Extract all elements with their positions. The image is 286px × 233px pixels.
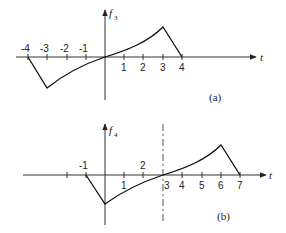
panel-caption-b: (b) (217, 210, 230, 223)
x-axis-label-t: t (269, 169, 273, 181)
tick-label: 3 (160, 62, 166, 73)
panel-b: -1 1 2 3 4 5 6 7 f 4 t (b) (23, 124, 273, 225)
tick-label: 5 (199, 180, 205, 191)
panel-caption-a: (a) (209, 91, 222, 104)
tick-label: 6 (218, 180, 224, 191)
tick-label: 2 (140, 160, 146, 171)
x-axis-label-t: t (260, 51, 264, 63)
tick-label: -3 (40, 43, 49, 54)
tick-label: 4 (179, 62, 185, 73)
y-axis-label-sub: 3 (114, 14, 118, 22)
tick-label: -2 (60, 43, 69, 54)
tick-label: 4 (179, 180, 185, 191)
tick-label: -4 (21, 43, 30, 54)
y-axis-label-sub: 4 (114, 131, 118, 139)
tick-label: 1 (121, 62, 127, 73)
tick-label: -1 (79, 43, 88, 54)
figure-canvas: -4 -3 -2 -1 1 2 3 4 f 3 t (a) -1 1 2 3 (0, 0, 286, 233)
tick-label: 2 (140, 62, 146, 73)
tick-label: -1 (79, 160, 88, 171)
tick-label: 3 (164, 180, 170, 191)
panel-a: -4 -3 -2 -1 1 2 3 4 f 3 t (a) (16, 7, 264, 104)
tick-label: 7 (237, 180, 243, 191)
tick-label: 1 (121, 180, 127, 191)
